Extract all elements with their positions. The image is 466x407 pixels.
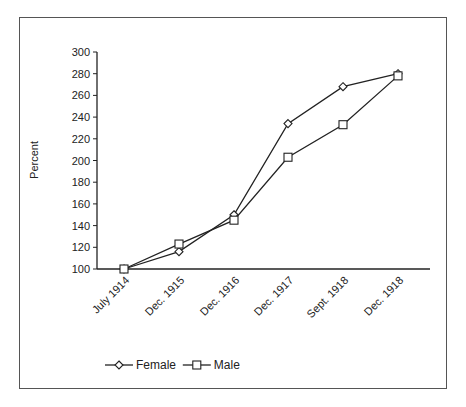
y-tick-label: 120 <box>72 241 90 253</box>
square-marker <box>339 121 347 129</box>
diamond-marker <box>115 361 123 369</box>
y-tick-label: 300 <box>72 46 90 58</box>
y-tick-label: 240 <box>72 111 90 123</box>
square-marker <box>175 240 183 248</box>
square-marker <box>284 153 292 161</box>
square-marker <box>394 72 402 80</box>
diamond-marker <box>339 83 347 91</box>
square-marker <box>230 216 238 224</box>
x-tick-label: Dec. 1917 <box>251 274 295 318</box>
y-tick-label: 200 <box>72 155 90 167</box>
line-chart: 100120140160180200220240260280300 Percen… <box>0 0 466 407</box>
y-axis-title: Percent <box>28 141 40 179</box>
legend-label: Female <box>136 358 176 372</box>
x-axis: July 1914Dec. 1915Dec. 1916Dec. 1917Sept… <box>90 269 430 320</box>
y-tick-label: 280 <box>72 68 90 80</box>
x-tick-label: Dec. 1915 <box>142 274 186 318</box>
legend-item-male: Male <box>183 358 240 372</box>
y-tick-label: 160 <box>72 198 90 210</box>
y-tick-label: 220 <box>72 133 90 145</box>
x-tick-label: Dec. 1918 <box>361 274 405 318</box>
series-male <box>124 76 398 269</box>
diamond-marker <box>175 248 183 256</box>
series-female <box>124 74 398 269</box>
legend-label: Male <box>214 358 240 372</box>
y-tick-label: 180 <box>72 176 90 188</box>
diamond-marker <box>284 120 292 128</box>
series-lines <box>120 70 402 273</box>
x-tick-label: Dec. 1916 <box>197 274 241 318</box>
square-marker <box>193 361 201 369</box>
x-tick-label: July 1914 <box>90 274 132 316</box>
square-marker <box>120 265 128 273</box>
y-tick-label: 100 <box>72 263 90 275</box>
y-tick-label: 140 <box>72 220 90 232</box>
legend: FemaleMale <box>105 358 240 372</box>
y-tick-label: 260 <box>72 89 90 101</box>
y-axis: 100120140160180200220240260280300 <box>72 46 97 275</box>
x-tick-label: Sept. 1918 <box>304 274 350 320</box>
legend-item-female: Female <box>105 358 176 372</box>
